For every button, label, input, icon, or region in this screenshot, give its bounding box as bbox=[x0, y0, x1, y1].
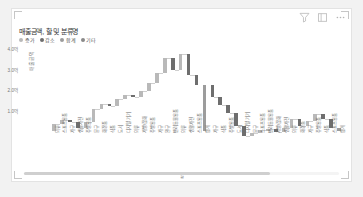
resize-handle-bottom-right[interactable] bbox=[341, 171, 349, 179]
x-axis-tick-label: 식품 bbox=[222, 125, 226, 133]
waterfall-bar[interactable] bbox=[211, 85, 215, 96]
x-axis-tick-label: 문구 bbox=[95, 125, 99, 133]
waterfall-bar[interactable] bbox=[234, 113, 238, 126]
legend-label: 기타 bbox=[86, 36, 96, 43]
waterfall-bar[interactable] bbox=[171, 58, 175, 70]
y-axis-title: 매출금액 bbox=[27, 51, 34, 71]
waterfall-bar[interactable] bbox=[187, 54, 191, 75]
legend-item[interactable]: 기타 bbox=[81, 36, 97, 43]
legend-swatch-icon bbox=[60, 38, 64, 42]
x-axis-tick-label: 가구 bbox=[309, 125, 313, 133]
horizontal-scrollbar[interactable] bbox=[24, 172, 339, 175]
waterfall-connector bbox=[95, 109, 99, 110]
x-axis-tick-label: 디지털 기기 bbox=[127, 112, 131, 133]
waterfall-connector bbox=[119, 99, 123, 100]
waterfall-connector bbox=[135, 97, 139, 98]
x-axis-tick-label: 주방용품 bbox=[151, 117, 155, 133]
waterfall-connector bbox=[151, 83, 155, 84]
resize-handle-top-left[interactable] bbox=[14, 11, 22, 19]
waterfall-connector bbox=[143, 91, 147, 92]
x-axis-tick-label: 식품 bbox=[111, 125, 115, 133]
x-axis-tick-label: 가방/잡화 bbox=[277, 116, 281, 133]
waterfall-bar[interactable] bbox=[179, 54, 183, 70]
x-axis-tick-label: 식품 bbox=[325, 125, 329, 133]
x-axis-tick-label: 가구 bbox=[71, 125, 75, 133]
x-axis-tick-label: 의류 bbox=[135, 125, 139, 133]
x-axis-tick-label: 생활가전 bbox=[79, 117, 83, 133]
visual-header-toolbar bbox=[299, 12, 346, 23]
waterfall-connector bbox=[309, 121, 313, 122]
visual-title: 매출금액, 할 및 분류명 bbox=[19, 26, 78, 36]
x-axis-tick-label: 가구 bbox=[159, 125, 163, 133]
x-axis-tick-label: 가구 bbox=[214, 125, 218, 133]
legend-swatch-icon bbox=[40, 38, 44, 42]
x-axis-tick-label: 화장품 bbox=[301, 121, 305, 133]
x-axis-tick-label: 스포츠용품 bbox=[261, 113, 265, 133]
y-axis-tick-label: 1.0억 bbox=[8, 108, 18, 114]
legend-item[interactable]: 감소 bbox=[40, 36, 56, 43]
x-axis-tick-label: 합계 bbox=[341, 125, 345, 133]
waterfall-bar[interactable] bbox=[92, 109, 96, 122]
x-axis-tick-label: 도서 bbox=[238, 125, 242, 133]
x-axis-tick-label: 의류 bbox=[56, 125, 60, 133]
legend-label: 증가 bbox=[25, 36, 35, 43]
legend-swatch-icon bbox=[19, 38, 23, 42]
x-axis-labels: 의류스포츠용품가구생활가전주방용품문구화장품식품도서디지털 기기의류가방/잡화주… bbox=[50, 133, 343, 175]
x-axis-tick-label: 의류 bbox=[182, 125, 186, 133]
waterfall-bar[interactable] bbox=[115, 99, 119, 106]
filter-icon[interactable] bbox=[299, 12, 310, 23]
waterfall-connector bbox=[159, 73, 163, 74]
resize-handle-bottom-left[interactable] bbox=[14, 171, 22, 179]
waterfall-bar[interactable] bbox=[155, 73, 159, 82]
waterfall-chart-visual[interactable]: 매출금액, 할 및 분류명 증가감소합계기타 매출금액 1.0억2.0억3.0억… bbox=[11, 8, 352, 182]
legend-swatch-icon bbox=[81, 38, 85, 42]
x-axis-tick-label: 주방용품 bbox=[87, 117, 91, 133]
x-axis-tick-label: 가방/잡화 bbox=[143, 116, 147, 133]
waterfall-bar[interactable] bbox=[195, 75, 199, 85]
waterfall-bar[interactable] bbox=[147, 83, 151, 91]
x-axis-tick-label: 반려동물용품 bbox=[269, 109, 273, 133]
x-axis-tick-label: 완구 bbox=[166, 125, 170, 133]
resize-handle-top-right[interactable] bbox=[341, 11, 349, 19]
waterfall-bar[interactable] bbox=[218, 97, 222, 106]
focus-mode-icon[interactable] bbox=[317, 12, 328, 23]
x-axis-tick-label: 스포츠용품 bbox=[198, 113, 202, 133]
waterfall-connector bbox=[175, 70, 179, 71]
y-axis-tick-label: 2.0억 bbox=[8, 87, 18, 93]
x-axis-tick-label: 의류 bbox=[293, 125, 297, 133]
x-axis-tick-label: 디지털 기기 bbox=[246, 112, 250, 133]
legend-item[interactable]: 증가 bbox=[19, 36, 35, 43]
x-axis-tick-label: 도서 bbox=[119, 125, 123, 133]
legend-label: 합계 bbox=[66, 36, 76, 43]
x-axis-tick-label: 스포츠용품 bbox=[63, 113, 67, 133]
x-axis-tick-label: 화장품 bbox=[103, 121, 107, 133]
y-axis-tick-label: 3.0억 bbox=[8, 67, 18, 73]
x-axis-tick-label: 문구 bbox=[254, 125, 258, 133]
y-axis-tick-label: 4.0억 bbox=[8, 46, 18, 52]
x-axis-tick-label: 합계 bbox=[206, 125, 210, 133]
scrollbar-thumb[interactable] bbox=[24, 172, 270, 175]
x-axis-tick-label: 스포츠용품 bbox=[333, 113, 337, 133]
legend-item[interactable]: 합계 bbox=[60, 36, 76, 43]
x-axis-tick-label: 생활가전 bbox=[285, 117, 289, 133]
x-axis-tick-label: 주방용품 bbox=[317, 117, 321, 133]
waterfall-connector bbox=[111, 106, 115, 107]
chart-legend: 증가감소합계기타 bbox=[19, 36, 96, 43]
x-axis-tick-label: 반려동물용품 bbox=[174, 109, 178, 133]
waterfall-bar[interactable] bbox=[226, 105, 230, 113]
x-axis-tick-label: 생활가전 bbox=[190, 117, 194, 133]
x-axis-tick-label: 주방용품 bbox=[230, 117, 234, 133]
legend-label: 감소 bbox=[45, 36, 55, 43]
waterfall-bar[interactable] bbox=[163, 58, 167, 73]
